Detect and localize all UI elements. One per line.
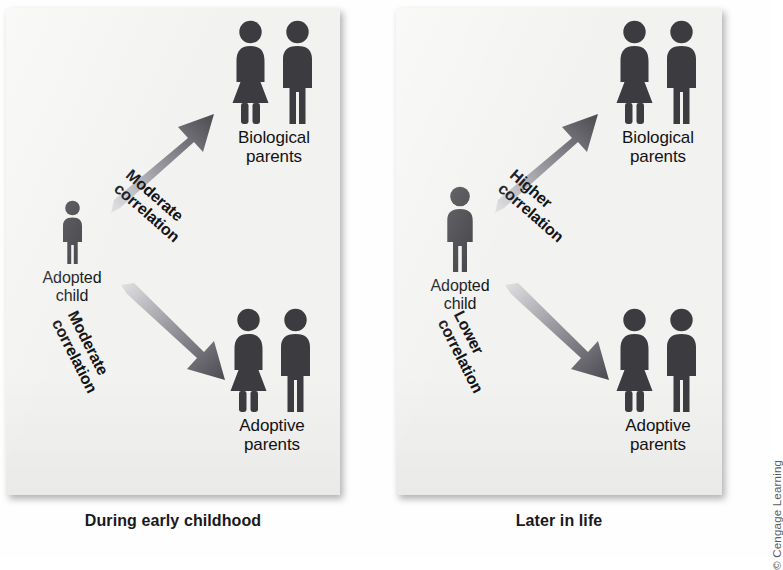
adopted-child-label: Adopted child: [24, 269, 120, 304]
correlation-label-adoptive-right: Lower correlation: [434, 308, 503, 396]
biological-parents-group-left: Biological parents: [230, 20, 318, 166]
child-figure-icon: [442, 186, 478, 272]
panel-during-early-childhood: Biological parents Adopted child: [6, 8, 340, 495]
biological-parents-label: Biological parents: [230, 129, 318, 166]
copyright-notice: © Cengage Learning: [771, 460, 783, 570]
parent-figures: [228, 308, 316, 412]
arrow-to-adoptive-wrap-left: [116, 280, 236, 394]
man-figure-icon: [275, 308, 316, 412]
adoptive-parents-group-left: Adoptive parents: [228, 308, 316, 454]
woman-figure-icon: [614, 20, 655, 124]
adoptive-parents-label: Adoptive parents: [228, 417, 316, 454]
caption-during-early-childhood: During early childhood: [6, 512, 340, 530]
parent-figures: [230, 20, 318, 124]
woman-figure-icon: [230, 20, 271, 124]
caption-later-in-life: Later in life: [396, 512, 722, 530]
adopted-child-label: Adopted child: [406, 277, 514, 312]
man-figure-icon: [277, 20, 318, 124]
woman-figure-icon: [614, 308, 655, 412]
adoptive-parents-label: Adoptive parents: [614, 417, 702, 454]
panel-later-in-life: Biological parents Adopted child: [396, 8, 722, 495]
correlation-label-adoptive-left: Moderate correlation: [48, 308, 117, 396]
arrow-down-right-icon: [116, 376, 236, 393]
child-figure-icon: [59, 200, 86, 264]
adoptive-parents-group-right: Adoptive parents: [614, 308, 702, 454]
arrow-down-right-icon: [500, 376, 620, 393]
arrow-to-adoptive-wrap-right: [500, 280, 620, 394]
parent-figures: [614, 308, 702, 412]
man-figure-icon: [661, 20, 702, 124]
biological-parents-label: Biological parents: [614, 129, 702, 166]
parent-figures: [614, 20, 702, 124]
man-figure-icon: [661, 308, 702, 412]
biological-parents-group-right: Biological parents: [614, 20, 702, 166]
